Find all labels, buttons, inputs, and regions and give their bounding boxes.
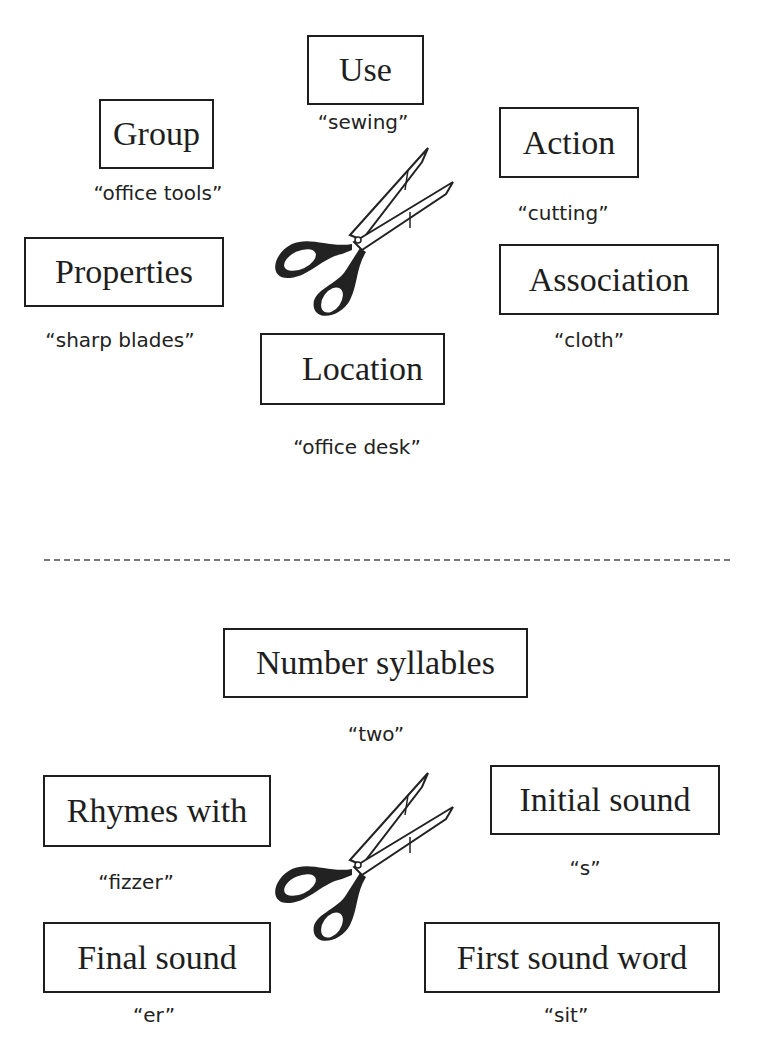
feature-cue-rhymes-with: “fizzer” bbox=[98, 870, 174, 894]
section-divider bbox=[44, 559, 730, 561]
feature-box-rhymes-with: Rhymes with bbox=[43, 775, 271, 847]
feature-cue-initial-sound: “s” bbox=[569, 856, 600, 880]
feature-cue-properties: “sharp blades” bbox=[45, 328, 194, 352]
feature-box-number-syllables: Number syllables bbox=[223, 628, 528, 698]
feature-cue-number-syllables: “two” bbox=[348, 722, 404, 746]
feature-cue-association: “cloth” bbox=[554, 328, 624, 352]
feature-box-action: Action bbox=[499, 107, 639, 178]
feature-cue-location: “office desk” bbox=[293, 435, 421, 459]
feature-cue-group: “office tools” bbox=[94, 181, 223, 205]
feature-box-group: Group bbox=[99, 99, 214, 169]
scissors-icon bbox=[270, 765, 460, 945]
feature-cue-action: “cutting” bbox=[517, 201, 608, 225]
scissors-icon bbox=[270, 140, 460, 320]
feature-box-final-sound: Final sound bbox=[43, 922, 271, 993]
feature-box-location: Location bbox=[260, 333, 445, 405]
feature-box-properties: Properties bbox=[24, 237, 224, 307]
feature-box-association: Association bbox=[499, 244, 719, 315]
feature-box-initial-sound: Initial sound bbox=[490, 765, 720, 835]
feature-cue-use: “sewing” bbox=[318, 110, 409, 134]
feature-box-use: Use bbox=[307, 35, 424, 105]
feature-box-first-sound-word: First sound word bbox=[424, 922, 720, 993]
feature-cue-first-sound-word: “sit” bbox=[544, 1003, 589, 1027]
feature-cue-final-sound: “er” bbox=[133, 1003, 175, 1027]
